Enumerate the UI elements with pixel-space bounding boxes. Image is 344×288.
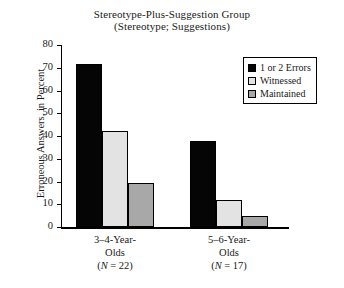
bar — [190, 141, 216, 227]
y-axis-tick-label: 70 — [31, 61, 53, 72]
bar — [242, 216, 268, 227]
x-axis-group-label-line: Olds — [62, 246, 168, 259]
legend-swatch-icon — [248, 90, 256, 98]
y-axis-tick: 0 — [57, 227, 62, 228]
y-axis-tick: 20 — [57, 182, 62, 183]
y-axis-tick-label: 80 — [31, 38, 53, 49]
legend-swatch-icon — [248, 77, 256, 85]
x-axis-group-label: 3–4-Year-Olds(N = 22) — [62, 233, 168, 272]
y-axis-tick: 50 — [57, 113, 62, 114]
y-axis-tick: 70 — [57, 68, 62, 69]
bar — [128, 183, 154, 227]
x-axis-group-label-line: (N = 22) — [62, 259, 168, 272]
x-axis-group-label-line: Olds — [176, 246, 282, 259]
bar — [76, 64, 102, 227]
x-axis-group-label-line: 5–6-Year- — [176, 233, 282, 246]
bar — [216, 200, 242, 227]
legend-swatch-icon — [248, 64, 256, 72]
chart-subtitle: (Stereotype; Suggestions) — [0, 20, 344, 32]
chart-title-block: Stereotype-Plus-Suggestion Group (Stereo… — [0, 8, 344, 33]
bar — [102, 131, 128, 227]
y-axis-tick-label: 60 — [31, 84, 53, 95]
y-axis-tick: 40 — [57, 136, 62, 137]
legend-item: Witnessed — [248, 74, 311, 87]
y-axis-tick-label: 40 — [31, 129, 53, 140]
legend-item: 1 or 2 Errors — [248, 61, 311, 74]
chart-legend: 1 or 2 ErrorsWitnessedMaintained — [243, 57, 317, 104]
y-axis-tick: 80 — [57, 45, 62, 46]
y-axis-tick-label: 0 — [31, 220, 53, 231]
y-axis-tick-label: 30 — [31, 152, 53, 163]
legend-item: Maintained — [248, 87, 311, 100]
x-axis-group-label: 5–6-Year-Olds(N = 17) — [176, 233, 282, 272]
x-axis-line — [61, 227, 289, 229]
y-axis-tick-label: 10 — [31, 197, 53, 208]
legend-item-label: Witnessed — [260, 75, 301, 86]
x-axis-group-label-line: (N = 17) — [176, 259, 282, 272]
legend-item-label: 1 or 2 Errors — [260, 62, 311, 73]
legend-item-label: Maintained — [260, 88, 306, 99]
y-axis-tick-label: 50 — [31, 106, 53, 117]
y-axis-tick-label: 20 — [31, 175, 53, 186]
y-axis-tick: 30 — [57, 159, 62, 160]
bar-chart-figure: Stereotype-Plus-Suggestion Group (Stereo… — [0, 0, 344, 288]
y-axis-tick: 10 — [57, 204, 62, 205]
chart-title: Stereotype-Plus-Suggestion Group — [0, 8, 344, 20]
x-axis-group-label-line: 3–4-Year- — [62, 233, 168, 246]
y-axis-tick: 60 — [57, 91, 62, 92]
